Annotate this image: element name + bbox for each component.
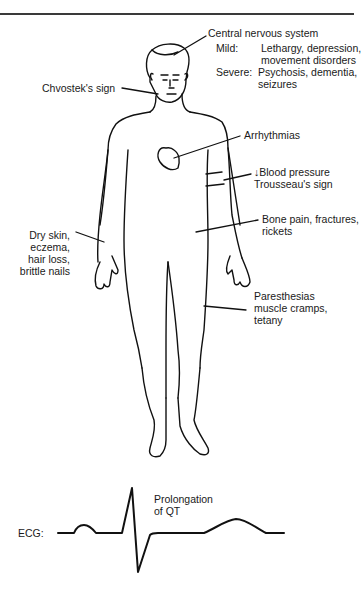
label-skin-line2: eczema,	[30, 241, 70, 253]
cns-mild-value: Lethargy, depression, movement disorders	[248, 42, 361, 66]
ecg-annotation-line2: of QT	[154, 505, 180, 517]
heart-shape	[158, 148, 179, 170]
label-blood-pressure: ↓Blood pressure	[254, 166, 330, 178]
cns-severe-key: Severe:	[216, 66, 256, 90]
ecg-label: ECG:	[18, 527, 44, 539]
label-bone-line2: rickets	[262, 225, 292, 237]
ecg-annotation-line1: Prolongation	[154, 493, 213, 505]
label-paresthesias-line1: Paresthesias	[254, 290, 315, 302]
label-bone-line1: Bone pain, fractures,	[262, 213, 359, 225]
label-chvostek: Chvostek's sign	[42, 82, 115, 94]
label-trousseau: Trousseau's sign	[254, 178, 333, 190]
label-cns-title: Central nervous system	[208, 27, 318, 39]
cns-mild-key: Mild:	[216, 42, 248, 66]
legs-outline	[142, 368, 209, 457]
label-skin-line1: Dry skin,	[29, 229, 70, 241]
label-paresthesias-line2: muscle cramps,	[254, 302, 328, 314]
label-skin-line4: brittle nails	[20, 265, 70, 277]
label-paresthesias-line3: tetany	[254, 314, 283, 326]
label-arrhythmias: Arrhythmias	[244, 129, 300, 141]
label-skin-line3: hair loss,	[28, 253, 70, 265]
torso-outline	[98, 94, 242, 398]
cns-symptoms-table: Mild: Lethargy, depression, movement dis…	[216, 42, 361, 90]
cns-severe-value: Psychosis, dementia, seizures	[256, 66, 357, 90]
blood-pressure-cuff	[206, 172, 224, 186]
